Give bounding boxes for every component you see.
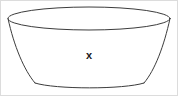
bowl-rim-ellipse	[8, 7, 170, 30]
figure-canvas: x	[0, 0, 178, 96]
bowl-diagram-svg: x	[0, 0, 178, 96]
dimension-label-x: x	[86, 49, 93, 61]
